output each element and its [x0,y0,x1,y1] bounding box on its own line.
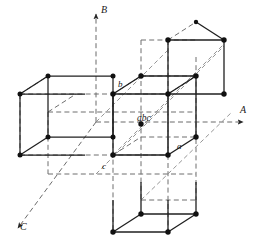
axis-lines [18,14,243,228]
bottom-cell-edges [113,182,196,232]
lattice-figure: B A C b a c abc [0,0,262,242]
lattice-construction-lines [20,22,196,232]
left-cell-edges [20,76,113,155]
lattice-vertices [18,20,227,235]
point-label-abc: abc [137,113,151,123]
axis-label-b: B [101,4,107,15]
axis-c-line [18,122,96,228]
lattice-svg [0,0,262,242]
axis-label-a: A [240,104,246,115]
point-label-c: c [102,161,106,171]
point-label-a: a [177,141,182,151]
axis-label-c: C [20,221,27,232]
point-label-b: b [118,79,123,89]
